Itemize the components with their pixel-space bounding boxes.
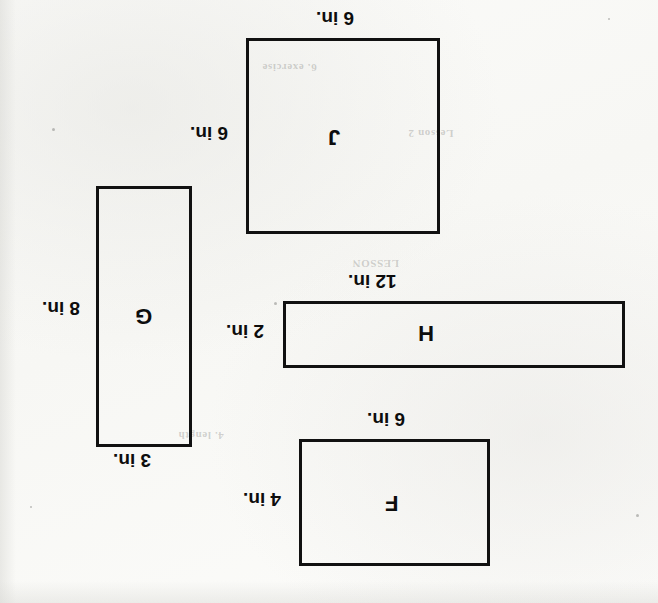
- figure-f-top-dimension: 6 in.: [367, 410, 405, 429]
- figure-j-side-dimension: 6 in.: [190, 124, 228, 143]
- page-edge-shadow-left: [0, 0, 16, 603]
- figure-h-rectangle: [283, 301, 625, 368]
- figure-f-letter: F: [385, 492, 398, 514]
- figure-g-bottom-dimension: 3 in.: [113, 451, 151, 470]
- figure-f-side-dimension: 4 in.: [243, 490, 281, 509]
- worksheet-page: 6. exercise Lesson 2 LESSON 4. length J …: [0, 0, 658, 603]
- page-edge-shadow-bottom: [0, 581, 658, 603]
- figure-j-letter: J: [328, 126, 340, 148]
- figure-h-side-dimension: 2 in.: [226, 322, 264, 341]
- scan-speck: [30, 506, 32, 508]
- figure-g-letter: G: [135, 305, 152, 327]
- scan-speck: [52, 128, 55, 131]
- figure-h-top-dimension: 12 in.: [348, 272, 397, 291]
- scan-speck: [608, 18, 610, 20]
- figure-g-side-dimension: 8 in.: [42, 299, 80, 318]
- figure-h-letter: H: [418, 322, 434, 344]
- figure-j-top-dimension: 6 in.: [316, 9, 354, 28]
- ghost-text-c: LESSON: [352, 258, 399, 270]
- figure-j-rectangle: [246, 38, 440, 234]
- scan-speck: [636, 514, 639, 517]
- scan-speck: [274, 302, 277, 305]
